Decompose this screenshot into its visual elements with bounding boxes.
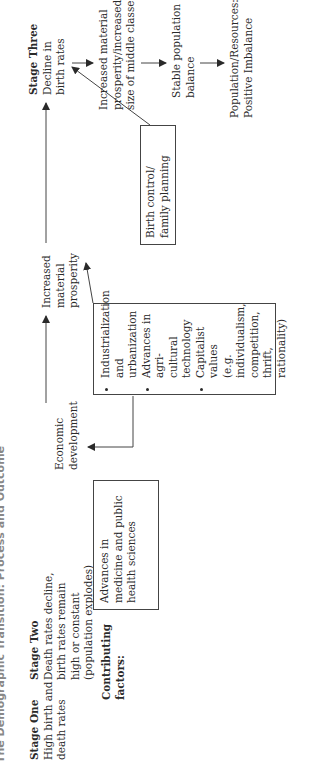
outcome-line: Stable population	[170, 4, 184, 98]
increased-prosperity-line: Increased	[40, 253, 54, 308]
outcome-line: prosperity/increased	[111, 0, 125, 110]
stage-two-line: birth rates remain	[55, 565, 69, 680]
birth-control-line: Birth control/	[144, 132, 158, 238]
stage-two: Stage Two Death rates decline, birth rat…	[28, 565, 96, 680]
outcome-line: Population/Resources:	[228, 0, 242, 118]
factor-line: (e.g. individualism,	[221, 308, 248, 378]
economic-development: Economic development	[53, 401, 80, 470]
medicine-line: medicine and public	[112, 487, 126, 603]
stage-two-line: high or constant	[69, 565, 83, 680]
contributing-factors-line: Contributing	[100, 624, 114, 700]
stage-one: Stage One High birth and death rates	[28, 682, 69, 761]
increased-prosperity-line: material	[54, 253, 68, 308]
factor-line: Advances in agri-	[140, 308, 167, 378]
industrial-factors-box: Industrialization and urbanization Advan…	[93, 303, 276, 395]
outcome-stable-balance: Stable population balance	[170, 4, 197, 98]
factor-line: competition, thrift,	[248, 308, 275, 378]
stage-two-heading: Stage Two	[28, 565, 42, 680]
factor-line: Capitalist values	[194, 308, 221, 378]
factor-line: Industrialization	[99, 308, 113, 378]
stage-three-line: birth rates	[54, 24, 68, 95]
medicine-line: Advances in	[98, 487, 112, 603]
stage-one-heading: Stage One	[28, 682, 42, 761]
diagram-canvas: The Demographic Transition: Process and …	[0, 0, 325, 763]
factor-line: and urbanization	[113, 308, 140, 378]
increased-prosperity-line: prosperity	[67, 253, 81, 308]
outcome-line: balance	[184, 4, 198, 98]
factor-line: cultural technology	[167, 308, 194, 378]
figure-title: The Demographic Transition: Process and …	[0, 446, 8, 763]
industrial-factor-item: Advances in agri- cultural technology	[140, 308, 194, 378]
birth-control-line: family planning	[158, 132, 172, 238]
stage-two-line: Death rates decline,	[42, 565, 56, 680]
industrial-factors-list: Industrialization and urbanization Advan…	[99, 308, 288, 390]
industrial-factor-item: Industrialization and urbanization	[99, 308, 140, 378]
economic-development-line: development	[67, 401, 81, 470]
medicine-box: Advances in medicine and public health s…	[93, 480, 159, 610]
medicine-line: health sciences	[125, 487, 139, 603]
outcome-positive-imbalance: Population/Resources: Positive Imbalance	[228, 0, 255, 118]
stage-one-line: High birth and	[42, 682, 56, 761]
outcome-line: size of middle classes	[124, 0, 138, 110]
stage-one-line: death rates	[55, 682, 69, 761]
stage-three-line: Decline in	[41, 24, 55, 95]
contributing-factors-line: factors:	[114, 624, 128, 700]
increased-prosperity: Increased material prosperity	[40, 253, 81, 308]
outcome-line: Increased material	[97, 0, 111, 110]
birth-control-box: Birth control/ family planning	[140, 125, 176, 245]
stage-three-heading: Stage Three	[27, 24, 41, 95]
economic-development-line: Economic	[53, 401, 67, 470]
factor-line: rationality)	[275, 308, 289, 378]
industrial-factor-item: Capitalist values (e.g. individualism, c…	[194, 308, 289, 378]
outcome-line: Positive Imbalance	[242, 0, 256, 118]
outcome-prosperity: Increased material prosperity/increased …	[97, 0, 138, 110]
stage-three: Stage Three Decline in birth rates	[27, 24, 68, 95]
arrow-industrial-to-prosperity	[86, 263, 93, 303]
contributing-factors-label: Contributing factors:	[100, 624, 127, 700]
